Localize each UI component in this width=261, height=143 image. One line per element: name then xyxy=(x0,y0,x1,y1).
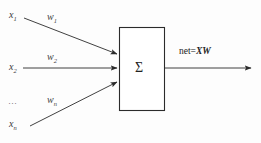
weight-label-w1: w1 xyxy=(47,12,57,25)
output-expression: XW xyxy=(196,46,211,56)
output-label: net=XW xyxy=(179,47,211,57)
neuron-diagram: x1 x2 xn … w1 w2 wn Σ net=XW xyxy=(0,0,261,143)
weight-label-w2: w2 xyxy=(47,52,57,65)
summation-symbol: Σ xyxy=(135,61,143,75)
input-label-xn: xn xyxy=(9,119,17,132)
input-label-x2: x2 xyxy=(9,62,17,75)
connection-line-x1 xyxy=(24,18,117,54)
input-label-x1: x1 xyxy=(9,10,17,23)
output-prefix: net= xyxy=(179,46,196,56)
input-ellipsis: … xyxy=(8,97,18,106)
diagram-canvas xyxy=(0,0,261,143)
weight-label-wn: wn xyxy=(47,95,57,108)
connection-line-xn xyxy=(30,82,117,126)
